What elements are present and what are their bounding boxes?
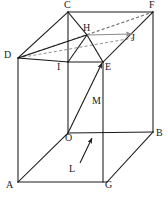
vertex-label-G: G	[105, 180, 112, 190]
diag-D-H-J	[18, 38, 133, 58]
vertex-label-A: A	[6, 180, 13, 190]
vector-H-J	[87, 34, 132, 35]
edge-D-H-solid	[18, 35, 87, 58]
vertex-label-O: O	[65, 133, 72, 143]
edge-G-B	[107, 132, 153, 182]
vertex-label-M: M	[92, 96, 101, 106]
vertex-label-C: C	[64, 0, 71, 10]
vertex-label-I: I	[57, 62, 60, 72]
vertex-label-H: H	[83, 23, 90, 33]
vertex-label-F: F	[149, 0, 155, 10]
vertex-label-E: E	[105, 62, 111, 72]
vertex-label-D: D	[4, 50, 11, 60]
vertex-label-B: B	[156, 128, 163, 138]
geometry-figure: C F H J D I E M O B L A G	[0, 0, 168, 198]
vector-L-M	[80, 138, 92, 163]
edge-D-C	[18, 12, 68, 58]
diag-H-F	[87, 12, 153, 35]
edge-O-B	[68, 132, 153, 133]
vertex-label-L: L	[69, 164, 75, 174]
edge-A-O	[18, 133, 68, 182]
edge-E-F	[103, 12, 153, 62]
edge-H-E-solid	[87, 35, 103, 62]
edge-D-I	[18, 58, 68, 62]
vertex-label-J: J	[131, 33, 135, 43]
